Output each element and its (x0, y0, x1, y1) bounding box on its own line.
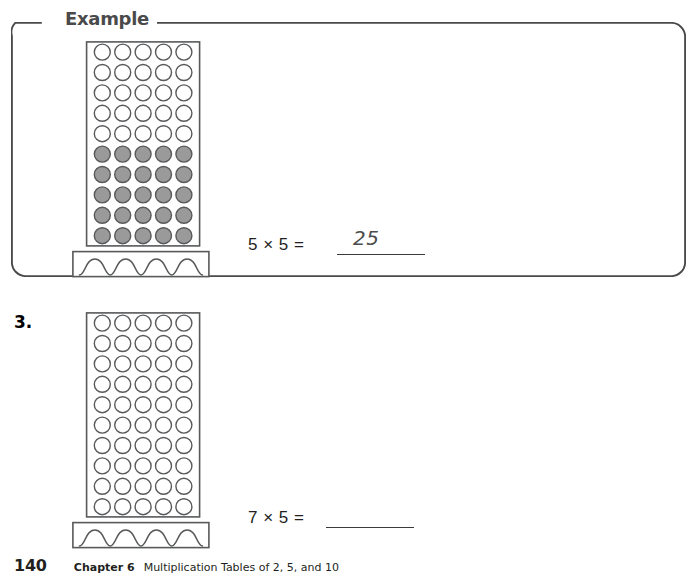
array-circle-empty (135, 458, 151, 474)
array-circle-filled (156, 207, 172, 223)
array-circle-empty (176, 356, 192, 372)
array-circle-empty (176, 458, 192, 474)
array-circle-filled (156, 167, 172, 183)
array-circle-filled (115, 228, 131, 244)
array-circle-filled (135, 228, 151, 244)
array-circle-filled (94, 207, 110, 223)
array-circle-empty (135, 499, 151, 515)
array-circle-empty (156, 458, 172, 474)
array-circle-empty (135, 417, 151, 433)
array-circle-empty (94, 85, 110, 101)
array-circle-empty (115, 478, 131, 494)
array-circle-empty (176, 478, 192, 494)
array-circle-empty (115, 499, 131, 515)
array-circle-filled (94, 167, 110, 183)
array-circle-filled (176, 228, 192, 244)
array-circle-empty (135, 478, 151, 494)
array-circle-empty (115, 65, 131, 81)
array-circle-empty (135, 65, 151, 81)
array-circle-empty (135, 376, 151, 392)
array-circle-filled (176, 167, 192, 183)
array-circle-empty (176, 126, 192, 142)
array-circle-empty (176, 417, 192, 433)
array-circle-empty (176, 105, 192, 121)
example-label: Example (57, 9, 157, 29)
array-circle-empty (135, 438, 151, 454)
array-circle-empty (115, 44, 131, 60)
array-circle-empty (115, 105, 131, 121)
array-circle-filled (135, 146, 151, 162)
array-circle-empty (115, 356, 131, 372)
array-circle-filled (156, 146, 172, 162)
array-circle-empty (115, 438, 131, 454)
array-circle-empty (94, 478, 110, 494)
example-equation-text: 5 × 5 = (248, 235, 304, 255)
example-answer-blank (337, 254, 425, 255)
array-circle-empty (176, 376, 192, 392)
array-circle-empty (176, 336, 192, 352)
array-circle-empty (94, 105, 110, 121)
array-circle-empty (156, 478, 172, 494)
array-circle-empty (156, 44, 172, 60)
array-circle-empty (115, 376, 131, 392)
array-circle-empty (135, 126, 151, 142)
array-circle-empty (94, 356, 110, 372)
array-circle-empty (176, 85, 192, 101)
problem3-equation-text: 7 × 5 = (248, 508, 304, 528)
array-circle-empty (135, 397, 151, 413)
array-circle-empty (94, 397, 110, 413)
problem-number-3: 3. (14, 312, 32, 332)
array-circle-empty (176, 44, 192, 60)
array-circle-empty (156, 315, 172, 331)
array-circle-empty (94, 417, 110, 433)
page-footer: 140 Chapter 6 Multiplication Tables of 2… (14, 556, 339, 575)
array-circle-empty (115, 417, 131, 433)
array-circle-empty (156, 376, 172, 392)
array-circle-empty (94, 438, 110, 454)
array-circle-filled (176, 207, 192, 223)
array-circle-filled (115, 187, 131, 203)
array-circle-filled (94, 187, 110, 203)
array-circle-empty (156, 397, 172, 413)
array-circle-empty (176, 397, 192, 413)
array-circle-empty (156, 417, 172, 433)
array-circle-empty (156, 356, 172, 372)
array-circle-empty (94, 336, 110, 352)
array-circle-empty (135, 336, 151, 352)
array-circle-empty (94, 65, 110, 81)
array-circle-empty (94, 126, 110, 142)
array-circle-empty (176, 499, 192, 515)
array-circle-filled (176, 146, 192, 162)
array-circle-filled (115, 207, 131, 223)
array-circle-empty (94, 499, 110, 515)
array-circle-filled (176, 187, 192, 203)
array-circle-empty (156, 85, 172, 101)
array-circle-empty (176, 438, 192, 454)
array-circle-empty (94, 458, 110, 474)
array-circle-empty (115, 85, 131, 101)
footer-page-number: 140 (14, 556, 47, 575)
array-circle-empty (115, 458, 131, 474)
base-plate (73, 523, 209, 548)
array-circle-empty (115, 397, 131, 413)
array-circle-empty (94, 315, 110, 331)
array-circle-filled (94, 228, 110, 244)
array-circle-empty (135, 356, 151, 372)
array-circle-empty (156, 126, 172, 142)
array-circle-empty (156, 65, 172, 81)
array-circle-empty (176, 65, 192, 81)
array-circle-empty (115, 336, 131, 352)
array-circle-empty (135, 85, 151, 101)
array-circle-filled (94, 146, 110, 162)
array-circle-empty (156, 438, 172, 454)
footer-chapter-title: Multiplication Tables of 2, 5, and 10 (144, 561, 339, 574)
array-circle-empty (156, 499, 172, 515)
array-circle-filled (115, 167, 131, 183)
problem3-answer-blank[interactable] (326, 527, 414, 528)
problem3-array-figure (72, 312, 212, 556)
example-answer-value: 25 (353, 226, 379, 250)
grater-svg-problem3 (72, 312, 212, 552)
array-circle-filled (115, 146, 131, 162)
array-circle-filled (156, 228, 172, 244)
array-circle-empty (94, 376, 110, 392)
